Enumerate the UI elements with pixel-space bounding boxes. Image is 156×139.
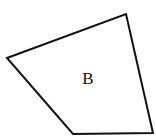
diagram-canvas: B <box>0 0 156 139</box>
quadrilateral-shape <box>7 14 153 134</box>
shape-label: B <box>82 69 93 88</box>
